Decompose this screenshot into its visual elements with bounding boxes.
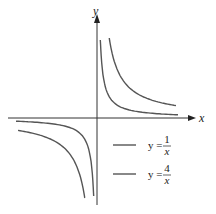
x-axis-arrow-icon [188,115,196,121]
curve-4-over-x-q3 [18,130,85,198]
curve-4-over-x-q1 [109,38,176,106]
legend-lhs-2: y = [148,168,162,180]
y-axis-label: y [92,4,99,18]
hyperbola-chart: x y y = 1 x y = 4 x [0,0,216,214]
legend-num-2: 4 [164,162,170,174]
legend-den-2: x [164,174,170,186]
legend-num-1: 1 [164,133,170,145]
x-axis-label: x [198,111,205,125]
legend: y = 1 x y = 4 x [113,133,171,186]
legend-lhs-1: y = [148,139,162,151]
legend-den-1: x [164,145,170,157]
